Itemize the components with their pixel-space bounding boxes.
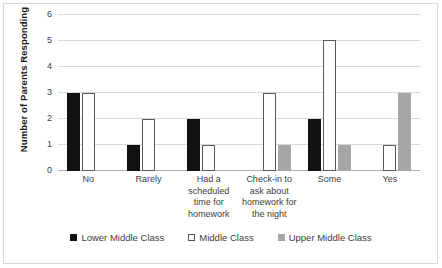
bar	[67, 93, 80, 172]
legend-item[interactable]: Middle Class	[188, 232, 253, 243]
bar-group	[179, 14, 239, 171]
y-tick-1: 1	[47, 139, 52, 149]
bar-group	[239, 14, 299, 171]
y-tick-6: 6	[47, 9, 52, 19]
x-axis-label: No	[58, 174, 118, 220]
legend-swatch-icon	[188, 234, 195, 241]
bar	[398, 93, 411, 172]
bar-group	[58, 14, 118, 171]
bar-group	[299, 14, 359, 171]
y-tick-0: 0	[47, 165, 52, 175]
bar	[187, 119, 200, 171]
legend-label: Upper Middle Class	[289, 232, 372, 243]
x-axis-label: Rarely	[118, 174, 178, 220]
bar	[338, 145, 351, 171]
legend-swatch-icon	[70, 234, 77, 241]
bar-groups	[58, 14, 420, 171]
x-axis-label: Yes	[360, 174, 420, 220]
bar	[142, 119, 155, 171]
y-tick-4: 4	[47, 61, 52, 71]
legend-item[interactable]: Upper Middle Class	[278, 232, 372, 243]
bar	[278, 145, 291, 171]
legend-label: Lower Middle Class	[81, 232, 164, 243]
legend-item[interactable]: Lower Middle Class	[70, 232, 164, 243]
chart-legend: Lower Middle ClassMiddle ClassUpper Midd…	[20, 232, 422, 243]
bar	[323, 40, 336, 171]
plot-area: 6 5 4 3 2 1 0	[58, 14, 420, 171]
bar-group	[360, 14, 420, 171]
x-axis-label: Had a scheduled time for homework	[179, 174, 239, 220]
bar	[82, 93, 95, 172]
bar	[127, 145, 140, 171]
y-tick-2: 2	[47, 113, 52, 123]
y-axis-title: Number of Parents Responding	[18, 0, 29, 165]
legend-swatch-icon	[278, 234, 285, 241]
bar-group	[118, 14, 178, 171]
x-axis-label: Check-in to ask about homework for the n…	[239, 174, 299, 220]
bar	[263, 93, 276, 172]
bar	[308, 119, 321, 171]
legend-label: Middle Class	[199, 232, 253, 243]
bar-chart: Number of Parents Responding 6 5 4 3 2 1…	[0, 0, 442, 268]
bar	[202, 145, 215, 171]
bar	[383, 145, 396, 171]
y-tick-3: 3	[47, 87, 52, 97]
x-axis-labels: NoRarelyHad a scheduled time for homewor…	[58, 174, 420, 220]
x-axis-label: Some	[299, 174, 359, 220]
y-tick-5: 5	[47, 35, 52, 45]
